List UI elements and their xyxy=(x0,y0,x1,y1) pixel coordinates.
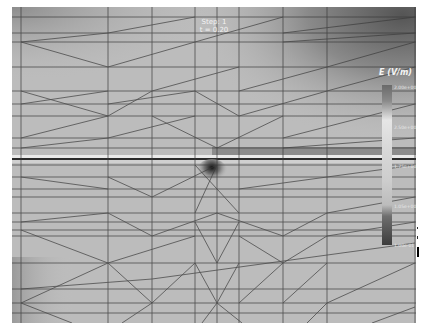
edge-mark xyxy=(417,236,418,239)
colorbar xyxy=(382,85,392,245)
colorbar-tick-3: 1.75e+00 xyxy=(394,164,416,169)
colorbar-tick-5: 1.00e-01 xyxy=(394,243,414,248)
time-label: t = 0.20 xyxy=(12,26,416,34)
colorbar-tick-4: 1.05e+00 xyxy=(394,204,416,209)
edge-mark xyxy=(417,227,418,229)
legend-title: E (V/m) xyxy=(379,68,412,77)
colorbar-tick-2: 2.50e+00 xyxy=(394,125,416,130)
colorbar-tick-1: 2.00e+00 xyxy=(394,85,416,90)
field-plot[interactable]: Step: 1 t = 0.20 E (V/m) 2.00e+00 2.50e+… xyxy=(12,7,416,323)
mesh-overlay xyxy=(12,7,416,323)
edge-mark xyxy=(417,247,419,257)
step-label: Step: 1 xyxy=(12,18,416,26)
